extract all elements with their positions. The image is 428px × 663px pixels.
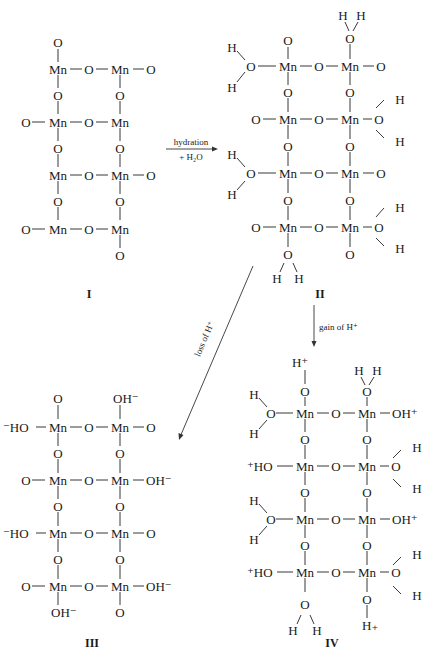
arrow-label-top: hydration <box>174 137 209 147</box>
atom: Mn <box>111 579 130 594</box>
atom: H <box>395 92 404 107</box>
atom: Mn <box>111 222 130 237</box>
atom: O <box>115 248 124 263</box>
atom: H <box>412 547 421 562</box>
atom: O <box>146 420 155 435</box>
atom: H <box>412 588 421 603</box>
atom: O <box>314 220 323 235</box>
atom: O <box>300 597 309 612</box>
atom: O <box>53 552 62 567</box>
atom: O <box>115 141 124 156</box>
arrow-label: gain of H⁺ <box>319 322 358 332</box>
atom: Mn <box>111 420 130 435</box>
atom: Mn <box>49 420 68 435</box>
atom: O <box>146 526 155 541</box>
atom: O <box>84 473 93 488</box>
atom: H <box>249 387 258 402</box>
atom: O <box>376 59 385 74</box>
atom: Mn <box>49 168 68 183</box>
atom: O <box>53 391 62 406</box>
atom: H <box>249 493 258 508</box>
atom: Mn <box>49 115 68 130</box>
atom: Mn <box>341 59 360 74</box>
atom: O <box>300 538 309 553</box>
atom: ⁻HO <box>3 526 29 541</box>
atom: O <box>115 552 124 567</box>
atom: H <box>395 241 404 256</box>
atom: OH⁺ <box>392 512 418 527</box>
atom: O <box>84 579 93 594</box>
atom: O <box>115 605 124 620</box>
atom: Mn <box>111 62 130 77</box>
atom: O <box>53 141 62 156</box>
atom: H <box>249 426 258 441</box>
atom: Mn <box>296 512 315 527</box>
atom: H <box>412 440 421 455</box>
structure-label: III <box>85 636 99 650</box>
atom: O <box>345 193 354 208</box>
atom: Mn <box>49 222 68 237</box>
atom: Mn <box>111 526 130 541</box>
atom: O <box>84 526 93 541</box>
atom: O <box>21 115 30 130</box>
atom: O <box>115 194 124 209</box>
hydration-arrow: hydration + H₂O <box>166 137 218 162</box>
atom: H₊ <box>362 618 378 633</box>
atom: O <box>391 459 400 474</box>
atom: O <box>314 112 323 127</box>
atom: H <box>227 40 236 55</box>
atom: Mn <box>111 473 130 488</box>
atom: O <box>283 139 292 154</box>
atom: OH⁻ <box>113 391 139 406</box>
atom: O <box>115 88 124 103</box>
atom: O <box>115 499 124 514</box>
atom: Mn <box>358 459 377 474</box>
atom: O <box>53 88 62 103</box>
atom: H <box>354 363 363 378</box>
atom: O <box>331 406 340 421</box>
atom: O <box>300 432 309 447</box>
atom: O <box>246 166 255 181</box>
atom: H <box>395 200 404 215</box>
atom: O <box>21 579 30 594</box>
atom: O <box>314 59 323 74</box>
structure-label: I <box>87 287 92 301</box>
atom: H⁺ <box>292 355 308 370</box>
atom: Mn <box>111 168 130 183</box>
atom: O <box>374 220 383 235</box>
atom: O <box>84 168 93 183</box>
atom: O <box>21 473 30 488</box>
atom: O <box>251 220 260 235</box>
atom: Mn <box>49 62 68 77</box>
atom: OH⁻ <box>51 605 77 620</box>
arrow-label: loss of H⁺ <box>192 320 216 358</box>
mno2-hydration-diagram: O Mn O Mn O O O O Mn O Mn O O Mn O Mn O … <box>0 0 428 663</box>
atom: O <box>266 406 275 421</box>
atom: Mn <box>279 166 298 181</box>
atom: H <box>372 363 381 378</box>
atom: O <box>362 538 371 553</box>
atom: O <box>331 565 340 580</box>
atom: O <box>314 166 323 181</box>
atom: Mn <box>341 220 360 235</box>
atom: O <box>84 222 93 237</box>
atom: O <box>84 420 93 435</box>
atom: O <box>283 85 292 100</box>
structure-label: IV <box>325 636 339 650</box>
atom: H <box>395 134 404 149</box>
atom: H <box>227 147 236 162</box>
atom: O <box>331 459 340 474</box>
atom: O <box>362 485 371 500</box>
atom: Mn <box>111 115 130 130</box>
atom: ⁺HO <box>247 565 273 580</box>
atom: O <box>300 485 309 500</box>
atom: H <box>272 271 281 286</box>
atom: O <box>283 247 292 262</box>
atom: O <box>84 62 93 77</box>
atom: ⁺HO <box>247 459 273 474</box>
atom: O <box>84 115 93 130</box>
atom: O <box>300 384 309 399</box>
atom: Mn <box>358 512 377 527</box>
structure-I: O Mn O Mn O O O O Mn O Mn O O Mn O Mn O … <box>21 35 155 301</box>
atom: Mn <box>341 112 360 127</box>
